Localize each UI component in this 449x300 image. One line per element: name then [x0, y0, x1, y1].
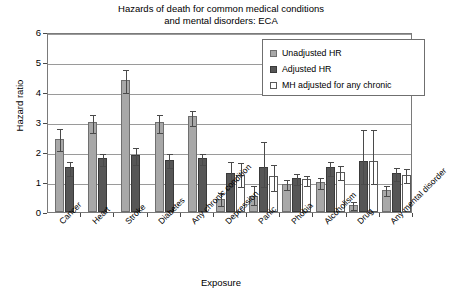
bar — [88, 122, 97, 212]
error-bar-cap — [228, 162, 234, 163]
error-bar — [307, 176, 308, 186]
error-bar — [136, 148, 137, 165]
chart-title-line-1: Hazards of death for common medical cond… — [0, 3, 442, 15]
error-bar-cap — [57, 151, 63, 152]
error-bar-cap — [328, 162, 334, 163]
error-bar-cap — [190, 111, 196, 112]
error-bar — [70, 162, 71, 176]
error-bar-cap — [218, 206, 224, 207]
error-bar-cap — [200, 165, 206, 166]
y-tick-label: 6 — [21, 27, 41, 38]
x-tick-mark — [246, 213, 247, 217]
error-bar-cap — [200, 154, 206, 155]
x-tick-mark — [412, 213, 413, 217]
error-bar — [386, 186, 387, 197]
x-tick-mark — [180, 213, 181, 217]
y-tick-label: 2 — [21, 147, 41, 158]
error-bar — [93, 115, 94, 133]
error-bar-cap — [371, 184, 377, 185]
error-bar — [264, 142, 265, 187]
error-bar — [396, 168, 397, 182]
error-bar-cap — [67, 176, 73, 177]
error-bar-cap — [167, 168, 173, 169]
y-tick-label: 0 — [21, 207, 41, 218]
error-bar-cap — [157, 133, 163, 134]
error-bar-cap — [100, 154, 106, 155]
error-bar-cap — [394, 168, 400, 169]
error-bar-cap — [384, 196, 390, 197]
legend-swatch-icon-mh-adjusted — [270, 82, 277, 89]
error-bar — [274, 165, 275, 191]
error-bar-cap — [338, 180, 344, 181]
error-bar-cap — [404, 183, 410, 184]
error-bar-cap — [304, 186, 310, 187]
chart-legend: Unadjusted HR Adjusted HR MH adjusted fo… — [262, 39, 425, 96]
error-bar-cap — [133, 148, 139, 149]
error-bar-cap — [100, 166, 106, 167]
error-bar-cap — [261, 142, 267, 143]
error-bar — [320, 178, 321, 189]
x-tick-mark — [213, 213, 214, 217]
error-bar — [192, 111, 193, 126]
error-bar — [202, 154, 203, 165]
error-bar-cap — [123, 93, 129, 94]
error-bar-cap — [394, 181, 400, 182]
error-bar-cap — [167, 154, 173, 155]
x-tick-mark — [147, 213, 148, 217]
error-bar-cap — [294, 174, 300, 175]
error-bar-cap — [294, 185, 300, 186]
error-bar-cap — [318, 178, 324, 179]
y-tick-label: 1 — [21, 177, 41, 188]
error-bar-cap — [123, 70, 129, 71]
error-bar-cap — [261, 187, 267, 188]
error-bar-cap — [284, 190, 290, 191]
error-bar-cap — [238, 187, 244, 188]
legend-label-adjusted: Adjusted HR — [282, 64, 331, 74]
error-bar-cap — [271, 191, 277, 192]
x-tick-mark — [312, 213, 313, 217]
legend-label-unadjusted: Unadjusted HR — [282, 48, 342, 58]
x-tick-mark — [346, 213, 347, 217]
error-bar-cap — [133, 165, 139, 166]
error-bar — [287, 180, 288, 191]
error-bar — [330, 162, 331, 176]
legend-item-unadjusted-hr: Unadjusted HR — [270, 45, 424, 61]
chart-title-line-2: and mental disorders: ECA — [0, 15, 442, 27]
gridline — [48, 34, 411, 35]
error-bar-cap — [351, 210, 357, 211]
x-tick-mark — [80, 213, 81, 217]
error-bar-cap — [90, 115, 96, 116]
error-bar-cap — [284, 180, 290, 181]
legend-item-adjusted-hr: Adjusted HR — [270, 61, 424, 77]
legend-item-mh-adjusted: MH adjusted for any chronic — [270, 77, 424, 93]
y-tick-label: 3 — [21, 117, 41, 128]
error-bar — [159, 115, 160, 133]
bar — [155, 122, 164, 212]
error-bar-cap — [361, 184, 367, 185]
legend-swatch-icon-adjusted — [270, 66, 277, 73]
x-tick-mark — [279, 213, 280, 217]
y-tick-label: 5 — [21, 57, 41, 68]
error-bar-cap — [384, 186, 390, 187]
error-bar-cap — [251, 205, 257, 206]
x-tick-mark — [113, 213, 114, 217]
chart-title: Hazards of death for common medical cond… — [0, 3, 442, 27]
error-bar-cap — [318, 189, 324, 190]
error-bar-cap — [271, 165, 277, 166]
error-bar-cap — [90, 133, 96, 134]
y-tick-mark — [43, 213, 47, 214]
error-bar — [340, 166, 341, 180]
error-bar-cap — [251, 186, 257, 187]
bar — [188, 116, 197, 212]
error-bar-cap — [157, 115, 163, 116]
error-bar — [60, 129, 61, 152]
error-bar-cap — [57, 129, 63, 130]
error-bar-cap — [304, 176, 310, 177]
error-bar — [406, 169, 407, 183]
error-bar — [103, 154, 104, 166]
error-bar-cap — [371, 130, 377, 131]
x-axis-label: Exposure — [0, 277, 442, 288]
error-bar — [297, 174, 298, 185]
error-bar-cap — [338, 166, 344, 167]
error-bar — [126, 70, 127, 93]
